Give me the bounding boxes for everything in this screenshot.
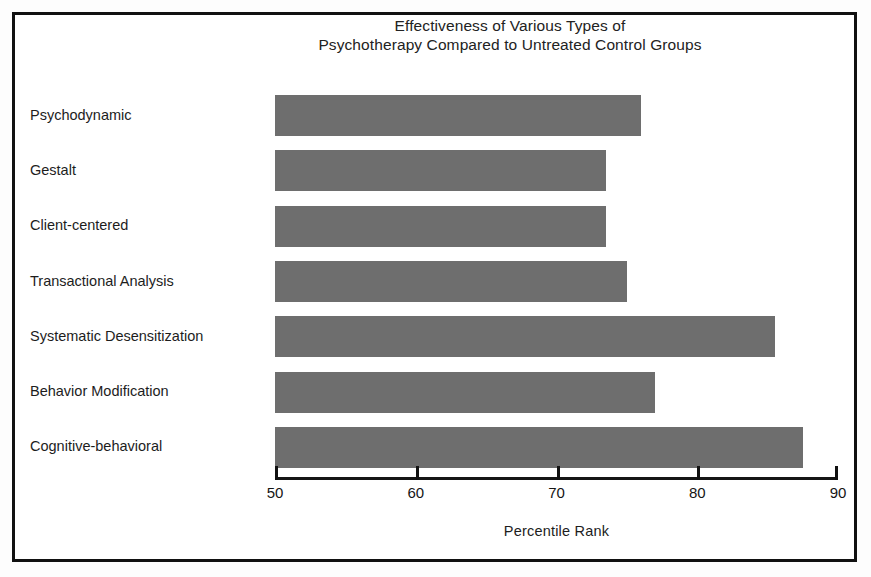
category-label-psychodynamic: Psychodynamic — [30, 107, 132, 123]
x-tick-label-70: 70 — [548, 484, 565, 501]
bar-fill — [275, 95, 641, 136]
category-label-gestalt: Gestalt — [30, 162, 76, 178]
x-tick-80 — [697, 466, 700, 480]
bar-fill — [275, 150, 606, 191]
category-label-client-centered: Client-centered — [30, 217, 128, 233]
x-tick-50 — [275, 466, 278, 480]
bar-psychodynamic — [275, 95, 838, 136]
bar-fill — [275, 427, 803, 468]
x-tick-label-60: 60 — [407, 484, 424, 501]
x-tick-70 — [557, 466, 560, 480]
bar-transactional-analysis — [275, 261, 838, 302]
chart-title-line-2: Psychotherapy Compared to Untreated Cont… — [200, 35, 820, 54]
plot-area — [275, 88, 838, 475]
bar-systematic-desensitization — [275, 316, 838, 357]
category-label-systematic-desensitization: Systematic Desensitization — [30, 328, 203, 344]
bar-behavior-modification — [275, 372, 838, 413]
x-tick-label-80: 80 — [689, 484, 706, 501]
chart-title: Effectiveness of Various Types of Psycho… — [200, 16, 820, 54]
category-label-cognitive-behavioral: Cognitive-behavioral — [30, 438, 162, 454]
chart-title-line-1: Effectiveness of Various Types of — [200, 16, 820, 35]
x-tick-60 — [416, 466, 419, 480]
x-tick-label-90: 90 — [830, 484, 847, 501]
bar-fill — [275, 206, 606, 247]
category-label-behavior-modification: Behavior Modification — [30, 383, 169, 399]
category-axis-labels: PsychodynamicGestaltClient-centeredTrans… — [30, 88, 265, 475]
bar-gestalt — [275, 150, 838, 191]
bar-cognitive-behavioral — [275, 427, 838, 468]
bar-fill — [275, 372, 655, 413]
category-label-transactional-analysis: Transactional Analysis — [30, 273, 174, 289]
x-axis-title: Percentile Rank — [275, 523, 838, 539]
x-tick-label-50: 50 — [267, 484, 284, 501]
chart-figure: Effectiveness of Various Types of Psycho… — [0, 0, 871, 577]
bar-fill — [275, 316, 775, 357]
x-tick-90 — [835, 466, 838, 480]
bar-fill — [275, 261, 627, 302]
bar-client-centered — [275, 206, 838, 247]
